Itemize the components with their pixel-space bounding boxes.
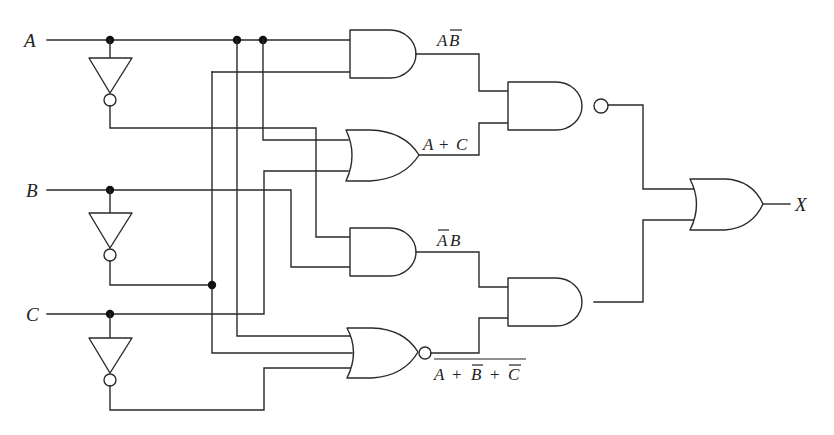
svg-text:+: +	[490, 365, 500, 384]
label-a-bnot: A B	[436, 30, 462, 50]
label-a-plus-c: A + C	[422, 135, 468, 154]
svg-text:C: C	[508, 365, 520, 384]
wire-input-c	[47, 171, 348, 338]
svg-text:A: A	[422, 135, 434, 154]
input-label-c: C	[26, 304, 39, 325]
svg-text:A: A	[436, 31, 448, 50]
nand-gate	[508, 82, 582, 130]
label-anot-b: A B	[436, 230, 461, 250]
svg-text:A: A	[436, 231, 448, 250]
svg-text:C: C	[456, 135, 468, 154]
not-gate-a	[89, 58, 132, 106]
and-gate-1	[350, 30, 416, 78]
or-gate-output	[690, 179, 763, 230]
wire-c-not	[110, 368, 352, 410]
wire-input-b	[47, 186, 350, 267]
wire-a-to-nor	[237, 40, 352, 336]
nor-gate	[347, 328, 418, 378]
svg-text:+: +	[439, 135, 449, 154]
logic-circuit-diagram: A B C	[0, 0, 834, 435]
input-label-b: B	[26, 180, 38, 201]
not-gate-b	[89, 213, 132, 261]
wire-nor-out	[431, 318, 508, 353]
wire-nand-out	[608, 105, 694, 189]
svg-text:A: A	[433, 365, 445, 384]
and-gate-3	[508, 278, 582, 326]
not-gate-c	[89, 338, 132, 386]
nand-bubble	[594, 99, 608, 113]
wire-input-a	[47, 36, 350, 58]
wire-and2-out	[416, 252, 508, 287]
svg-text:B: B	[471, 365, 482, 384]
output-label-x: X	[794, 194, 808, 215]
junction-dot	[208, 281, 216, 289]
nor-bubble	[419, 347, 431, 359]
svg-text:B: B	[450, 231, 461, 250]
or-gate-1	[346, 130, 419, 181]
svg-text:+: +	[452, 365, 462, 384]
input-label-a: A	[22, 30, 36, 51]
and-gate-2	[350, 228, 416, 276]
wire-a-to-or	[263, 40, 348, 140]
label-nor-expression: A + B + C	[433, 359, 526, 384]
svg-text:B: B	[449, 31, 460, 50]
wire-and3-out	[594, 220, 694, 302]
wire-and1-out	[416, 54, 508, 91]
